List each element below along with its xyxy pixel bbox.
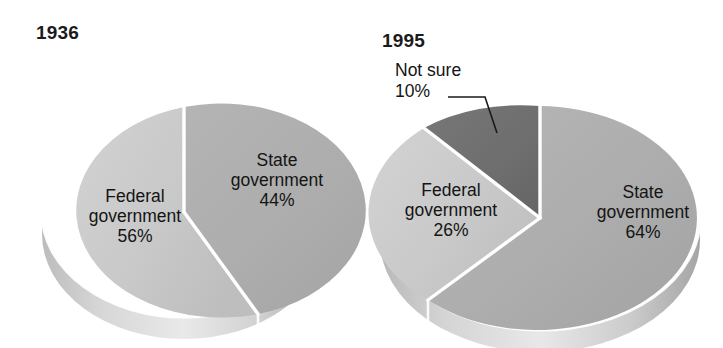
pie-graphic-1995: [362, 0, 723, 348]
slice-label-line1: Not sure: [395, 60, 515, 81]
slice-label-value: 10%: [395, 81, 515, 102]
slice-label-1995-notsure: Not sure 10%: [395, 60, 515, 102]
pie-chart-figure: 1936: [0, 0, 723, 348]
chart-1936: 1936: [0, 0, 362, 348]
chart-1995: 1995: [362, 0, 723, 348]
pie-graphic-1936: [0, 0, 362, 348]
